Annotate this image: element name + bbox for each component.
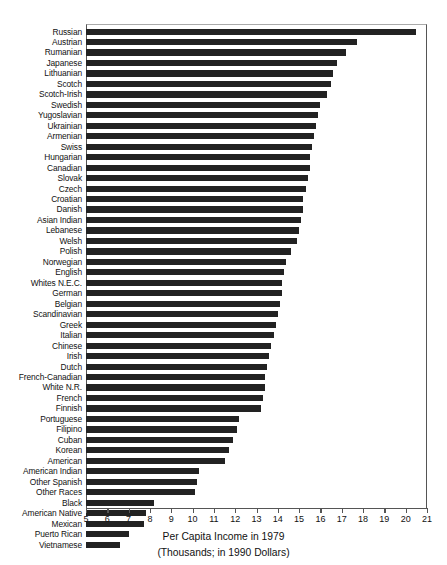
bar-row: Other Spanish — [0, 477, 447, 487]
bar-row: Chinese — [0, 341, 447, 351]
bar-row: Other Races — [0, 487, 447, 497]
x-tick-mark — [257, 508, 258, 513]
category-label: French — [57, 393, 82, 403]
category-label: Czech — [59, 184, 82, 194]
x-tick-label: 8 — [140, 514, 160, 524]
bar-row: Asian Indian — [0, 215, 447, 225]
category-label: American Native — [22, 508, 82, 518]
bar-row: Armenian — [0, 131, 447, 141]
x-tick-mark — [406, 508, 407, 513]
bar-row: American — [0, 456, 447, 466]
bar — [86, 81, 331, 87]
bar — [86, 500, 154, 506]
bar-row: French-Canadian — [0, 372, 447, 382]
x-tick-label: 21 — [417, 514, 437, 524]
bar-row: Japanese — [0, 58, 447, 68]
category-label: Chinese — [52, 341, 82, 351]
x-tick-label: 17 — [332, 514, 352, 524]
category-label: Hungarian — [44, 152, 82, 162]
bar-row: Dutch — [0, 362, 447, 372]
bar — [86, 269, 284, 275]
bar — [86, 259, 286, 265]
category-label: Cuban — [58, 435, 82, 445]
bar-row: Austrian — [0, 37, 447, 47]
bar-row: Russian — [0, 27, 447, 37]
category-label: Russian — [52, 27, 82, 37]
bar — [86, 49, 346, 55]
category-label: Armenian — [47, 131, 82, 141]
bar-row: Rumanian — [0, 47, 447, 57]
category-label: Scotch-Irish — [39, 89, 82, 99]
category-label: Dutch — [61, 362, 82, 372]
bar-row: Italian — [0, 330, 447, 340]
bar-row: English — [0, 267, 447, 277]
category-label: Korean — [56, 445, 82, 455]
category-label: Polish — [60, 246, 82, 256]
bar-row: Danish — [0, 204, 447, 214]
x-tick-label: 18 — [353, 514, 373, 524]
bar — [86, 426, 237, 432]
category-label: Scandinavian — [33, 309, 82, 319]
bar-row: Cuban — [0, 435, 447, 445]
x-tick-mark — [320, 508, 321, 513]
category-label: Lebanese — [46, 225, 82, 235]
x-tick-label: 5 — [76, 514, 96, 524]
bar — [86, 301, 280, 307]
bar — [86, 133, 314, 139]
category-label: Black — [62, 498, 82, 508]
category-label: Portuguese — [40, 414, 82, 424]
x-tick-mark — [107, 508, 108, 513]
bar — [86, 123, 316, 129]
bar — [86, 447, 229, 453]
category-label: White N.R. — [43, 382, 83, 392]
bar — [86, 364, 267, 370]
bar-row: American Indian — [0, 466, 447, 476]
bar — [86, 102, 320, 108]
x-tick-mark — [171, 508, 172, 513]
x-tick-label: 20 — [396, 514, 416, 524]
category-label: Welsh — [59, 236, 82, 246]
bar-row: Yugoslavian — [0, 110, 447, 120]
category-label: Belgian — [55, 299, 82, 309]
category-label: Irish — [67, 351, 82, 361]
x-axis-sublabel: (Thousands; in 1990 Dollars) — [0, 547, 447, 558]
category-label: Swedish — [51, 100, 82, 110]
category-label: Slovak — [57, 173, 82, 183]
bar — [86, 70, 333, 76]
bar-row: Polish — [0, 246, 447, 256]
category-label: Ukrainian — [48, 121, 82, 131]
bar-row: Ukrainian — [0, 121, 447, 131]
bar — [86, 437, 233, 443]
x-tick-mark — [427, 508, 428, 513]
bar-row: Irish — [0, 351, 447, 361]
bar — [86, 165, 310, 171]
bar-row: Slovak — [0, 173, 447, 183]
bar-row: Hungarian — [0, 152, 447, 162]
category-label: Scotch — [57, 79, 82, 89]
category-label: Finnish — [56, 403, 82, 413]
x-tick-label: 19 — [374, 514, 394, 524]
category-label: Asian Indian — [37, 215, 82, 225]
category-label: Austrian — [52, 37, 82, 47]
x-tick-mark — [342, 508, 343, 513]
bar-row: Croatian — [0, 194, 447, 204]
bar — [86, 416, 239, 422]
bar — [86, 332, 274, 338]
bar — [86, 248, 291, 254]
bar-row: White N.R. — [0, 382, 447, 392]
bar — [86, 112, 318, 118]
x-tick-label: 11 — [204, 514, 224, 524]
bar — [86, 290, 282, 296]
bar — [86, 280, 282, 286]
x-tick-mark — [384, 508, 385, 513]
bar — [86, 405, 261, 411]
bar — [86, 196, 303, 202]
bar-row: Whites N.E.C. — [0, 278, 447, 288]
bar — [86, 91, 327, 97]
bar — [86, 322, 276, 328]
bar-row: Norwegian — [0, 257, 447, 267]
category-label: Swiss — [61, 142, 82, 152]
bar — [86, 374, 265, 380]
x-tick-mark — [150, 508, 151, 513]
x-tick-label: 9 — [161, 514, 181, 524]
